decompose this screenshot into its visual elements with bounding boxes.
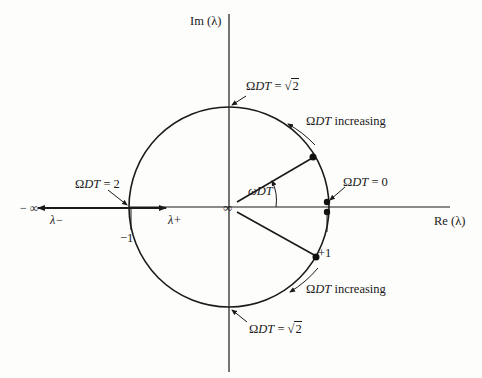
- dt-variable: DT: [257, 184, 273, 198]
- origin-infinity-label: ∞: [223, 201, 232, 214]
- lambda-minus-label: λ−: [50, 214, 63, 226]
- dt-variable: DT: [258, 322, 274, 336]
- top-label-leader: [232, 96, 246, 105]
- diagram-graphics: [0, 0, 482, 378]
- bottom-label-leader: [232, 310, 247, 322]
- bottom-omega-sqrt2-label: ΩDT = √2: [249, 323, 302, 336]
- top-omega-sqrt2-label: ΩDT = √2: [246, 80, 299, 93]
- omega-symbol: Ω: [306, 282, 315, 296]
- root-locus-diagram: Im (λ) Re (λ) ΩDT = √2 ΩDT = √2 ΩDT incr…: [0, 0, 482, 378]
- omega-symbol: Ω: [343, 175, 352, 189]
- dt-variable: DT: [315, 282, 331, 296]
- lambda-plus-label: λ+: [168, 214, 181, 226]
- omega-two-label: ΩDT = 2: [75, 178, 120, 191]
- equals-sqrt: = √: [271, 79, 291, 93]
- increasing-text: increasing: [331, 114, 386, 128]
- dt-variable: DT: [255, 79, 271, 93]
- zero-dot-upper: [324, 199, 330, 205]
- real-axis-label: Re (λ): [434, 215, 465, 228]
- sqrt-value: 2: [294, 321, 301, 336]
- sqrt-value: 2: [291, 78, 298, 93]
- lower-radial-line: [237, 212, 316, 256]
- dt-variable: DT: [315, 114, 331, 128]
- equals-two: = 2: [100, 177, 120, 191]
- equals-zero: = 0: [368, 175, 388, 189]
- omega-zero-label: ΩDT = 0: [343, 176, 388, 189]
- omega-dt-angle-label: ωDT: [248, 185, 273, 198]
- increasing-text: increasing: [331, 282, 386, 296]
- omega-symbol: Ω: [306, 114, 315, 128]
- two-label-leader: [108, 190, 127, 205]
- upper-eigenvalue-dot: [310, 154, 317, 161]
- dt-variable: DT: [352, 175, 368, 189]
- dt-variable: DT: [84, 177, 100, 191]
- negative-infinity-label: − ∞: [20, 202, 38, 214]
- minus-one-label: −1: [120, 232, 133, 245]
- lower-increasing-label: ΩDT increasing: [306, 283, 386, 296]
- omega-symbol: Ω: [75, 177, 84, 191]
- omega-lower-symbol: ω: [248, 184, 257, 198]
- omega-symbol: Ω: [246, 79, 255, 93]
- plus-one-label: +1: [318, 247, 331, 260]
- upper-increasing-label: ΩDT increasing: [306, 115, 386, 128]
- imaginary-axis-label: Im (λ): [190, 15, 221, 28]
- equals-sqrt: = √: [274, 322, 294, 336]
- omega-symbol: Ω: [249, 322, 258, 336]
